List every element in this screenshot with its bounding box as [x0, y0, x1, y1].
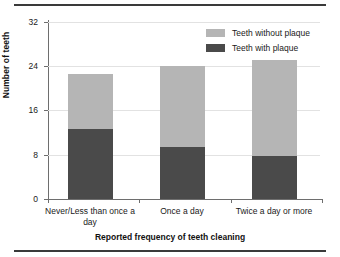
bar-segment-teeth-with-plaque[interactable] [252, 156, 297, 199]
x-axis-line [48, 199, 322, 200]
legend-label-teeth-with-plaque: Teeth with plaque [232, 43, 298, 53]
legend-swatch-icon-teeth-with-plaque [206, 44, 225, 52]
gridline-32 [48, 22, 320, 23]
x-tick-mark-start [48, 199, 49, 203]
legend-label-teeth-without-plaque: Teeth without plaque [232, 28, 310, 38]
bar-group-twice-a-day-or-more[interactable] [252, 60, 297, 199]
chart-figure: 32 24 16 8 0 Number of teeth Never/Le [0, 0, 340, 257]
y-tick-label-0: 0 [0, 195, 38, 204]
bar-segment-teeth-with-plaque[interactable] [68, 129, 113, 199]
bar-segment-teeth-without-plaque[interactable] [68, 74, 113, 129]
x-tick-mark-2 [231, 199, 232, 203]
bar-segment-teeth-without-plaque[interactable] [160, 66, 205, 147]
legend-swatch-icon-teeth-without-plaque [206, 29, 225, 37]
x-axis-title: Reported frequency of teeth cleaning [0, 232, 340, 242]
x-tick-label-twice-a-day-or-more: Twice a day or more [222, 206, 326, 217]
bar-group-never-less-than-once-a-day[interactable] [68, 74, 113, 199]
x-tick-label-once-a-day: Once a day [130, 206, 234, 217]
bar-segment-teeth-with-plaque[interactable] [160, 147, 205, 199]
figure-bottom-rule [14, 250, 326, 252]
x-tick-mark-end [322, 199, 323, 203]
bar-segment-teeth-without-plaque[interactable] [252, 60, 297, 156]
chart-legend: Teeth without plaque Teeth with plaque [206, 26, 310, 56]
x-tick-mark-1 [139, 199, 140, 203]
y-tick-label-8: 8 [0, 151, 38, 160]
y-axis-title: Number of teeth [1, 0, 11, 135]
legend-item-teeth-with-plaque[interactable]: Teeth with plaque [206, 41, 310, 54]
legend-item-teeth-without-plaque[interactable]: Teeth without plaque [206, 26, 310, 39]
figure-top-rule [14, 4, 326, 6]
x-tick-label-never-less-than-once-a-day: Never/Less than once a day [38, 206, 142, 228]
bar-group-once-a-day[interactable] [160, 66, 205, 199]
